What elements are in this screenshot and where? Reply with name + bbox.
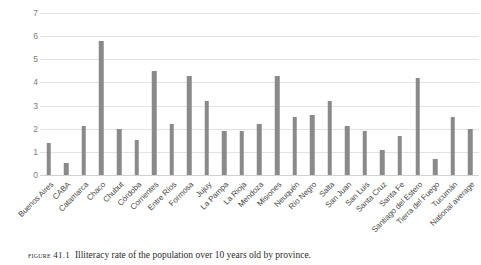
figure-container: 01234567 Buenos AiresCABACatamarcaChacoC… — [0, 0, 481, 265]
x-label-slot: Mendoza — [251, 178, 269, 240]
figure-caption: FIGURE 41.1Illiteracy rate of the popula… — [28, 250, 475, 261]
bar — [398, 136, 403, 175]
bar — [134, 140, 139, 175]
bar — [275, 76, 280, 176]
x-label-slot: San Juan — [339, 178, 357, 240]
bars-layer — [40, 0, 479, 178]
bar — [433, 159, 438, 175]
bar — [187, 76, 192, 176]
bar — [450, 117, 455, 175]
bar — [152, 71, 157, 175]
y-tick-label: 7 — [24, 9, 38, 18]
x-label-slot: Chaco — [93, 178, 111, 240]
bar — [205, 101, 210, 175]
bar-slot — [409, 0, 427, 178]
bar-slot — [180, 0, 198, 178]
bar — [47, 143, 52, 175]
bar-slot — [128, 0, 146, 178]
bar — [292, 117, 297, 175]
bar-slot — [461, 0, 479, 178]
bar — [345, 126, 350, 175]
x-label-slot: Misiones — [268, 178, 286, 240]
bar — [257, 124, 262, 175]
y-tick-label: 1 — [24, 148, 38, 157]
bar-slot — [58, 0, 76, 178]
x-label-slot: Catamarca — [75, 178, 93, 240]
bar — [99, 41, 104, 175]
x-label-slot: Chubut — [110, 178, 128, 240]
bar-slot — [233, 0, 251, 178]
y-tick-label: 2 — [24, 124, 38, 133]
y-axis: 01234567 — [18, 0, 38, 178]
figure-number: FIGURE 41.1 — [28, 250, 70, 260]
bar — [415, 78, 420, 175]
bar-slot — [339, 0, 357, 178]
bar — [222, 131, 227, 175]
bar-slot — [75, 0, 93, 178]
bar — [468, 129, 473, 175]
bar — [240, 131, 245, 175]
bar — [117, 129, 122, 175]
bar — [169, 124, 174, 175]
y-tick-label: 0 — [24, 171, 38, 180]
bar-slot — [216, 0, 234, 178]
bar — [327, 101, 332, 175]
bar-slot — [303, 0, 321, 178]
bar-slot — [40, 0, 58, 178]
x-label-slot: Río Negro — [303, 178, 321, 240]
x-tick-label: Buenos Aires — [16, 180, 55, 219]
y-tick-label: 4 — [24, 78, 38, 87]
bar — [363, 131, 368, 175]
bar — [380, 150, 385, 175]
x-label-slot: La Pampa — [216, 178, 234, 240]
bar — [310, 115, 315, 175]
bar — [64, 163, 69, 175]
bar-slot — [145, 0, 163, 178]
bar-slot — [198, 0, 216, 178]
bar-slot — [93, 0, 111, 178]
x-label-slot: Formosa — [180, 178, 198, 240]
y-tick-label: 6 — [24, 32, 38, 41]
bar-slot — [163, 0, 181, 178]
bar — [82, 126, 87, 175]
bar-slot — [356, 0, 374, 178]
x-label-slot: Buenos Aires — [40, 178, 58, 240]
bar-slot — [391, 0, 409, 178]
bar-slot — [110, 0, 128, 178]
x-label-slot: Entre Ríos — [163, 178, 181, 240]
y-tick-label: 3 — [24, 101, 38, 110]
figure-caption-text: Illiteracy rate of the population over 1… — [75, 250, 311, 260]
chart-plot-area: 01234567 — [0, 0, 481, 178]
bar-slot — [251, 0, 269, 178]
bar-slot — [374, 0, 392, 178]
y-tick-label: 5 — [24, 55, 38, 64]
x-axis-labels: Buenos AiresCABACatamarcaChacoChubutCórd… — [40, 178, 479, 240]
bar-slot — [321, 0, 339, 178]
bar-slot — [426, 0, 444, 178]
bar-slot — [286, 0, 304, 178]
bar-slot — [268, 0, 286, 178]
bar-slot — [444, 0, 462, 178]
x-label-slot: National average — [461, 178, 479, 240]
